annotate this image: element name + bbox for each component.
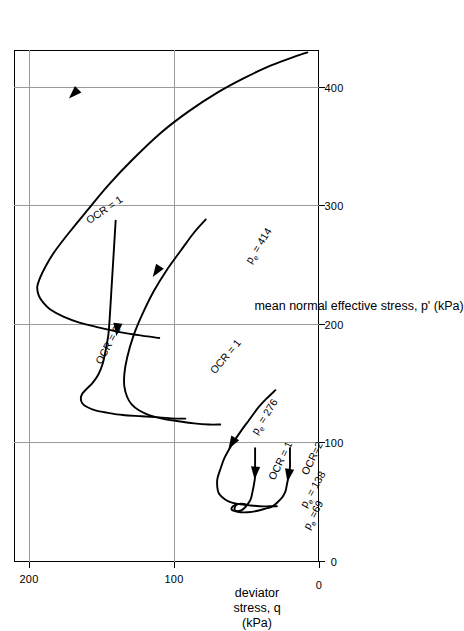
y-axis-title: deviator stress, q (kPa): [233, 586, 280, 631]
x-axis-tick-label: 400: [325, 82, 344, 94]
stress-path-curve: [81, 221, 186, 419]
y-axis-tick: [174, 562, 175, 568]
y-axis-title-line-1: deviator: [233, 586, 280, 601]
stress-path-curve: [37, 52, 307, 338]
y-axis-tick-label: 0: [316, 579, 322, 591]
stress-path-curve: [124, 219, 220, 424]
x-axis-title: mean normal effective stress, p' (kPa): [254, 299, 463, 313]
x-axis-tick-label: 0: [331, 556, 337, 568]
path-direction-arrow: [285, 468, 294, 482]
y-axis-tick-label: 100: [164, 573, 183, 585]
y-axis-title-line-3: (kPa): [233, 616, 280, 631]
y-axis-title-line-2: stress, q: [233, 601, 280, 616]
x-axis-tick-label: 300: [325, 200, 344, 212]
y-axis-tick: [29, 562, 30, 568]
y-axis-tick: [319, 562, 320, 568]
x-axis-tick-label: 200: [325, 319, 344, 331]
stress-path-curve: [235, 448, 256, 511]
x-axis-tick-label: 100: [325, 437, 344, 449]
y-axis-tick-label: 200: [19, 573, 38, 585]
path-direction-arrow: [69, 86, 81, 98]
path-direction-arrow: [153, 264, 164, 277]
